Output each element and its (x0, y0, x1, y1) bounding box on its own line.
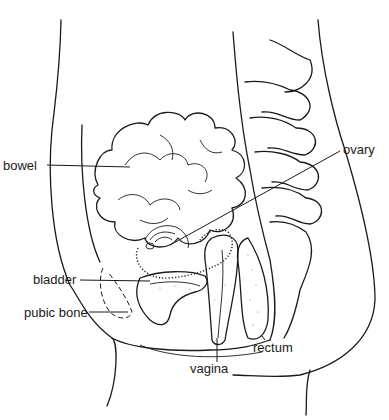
anatomy-illustration (0, 0, 389, 420)
label-ovary: ovary (343, 143, 375, 156)
leader-ovary (170, 151, 340, 245)
bladder-shape (137, 272, 207, 325)
buttock-leg-line (306, 370, 310, 415)
perineum-outline (112, 338, 270, 351)
stipple (159, 254, 258, 325)
pelvic-anatomy-diagram: bowel ovary bladder pubic bone rectum va… (0, 0, 389, 420)
label-pubic-bone: pubic bone (24, 306, 88, 319)
uterus-vagina (205, 235, 238, 344)
bowel-loops (94, 112, 246, 247)
leader-bowel (47, 165, 130, 167)
label-vagina: vagina (190, 362, 228, 375)
pubic-bone-dashed (100, 268, 132, 318)
rectum-shape (237, 238, 268, 339)
label-bowel: bowel (3, 159, 37, 172)
abdominal-wall (82, 125, 100, 262)
label-bladder: bladder (33, 273, 76, 286)
label-rectum: rectum (253, 341, 293, 354)
body-outline-front (50, 20, 116, 406)
